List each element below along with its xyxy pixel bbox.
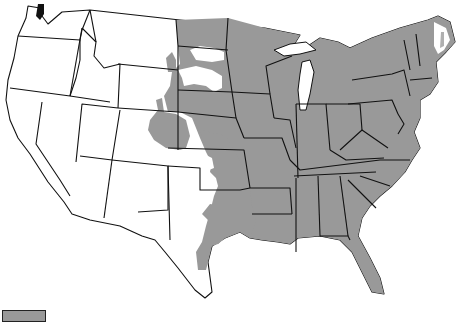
legend-swatch-range [2,310,46,322]
